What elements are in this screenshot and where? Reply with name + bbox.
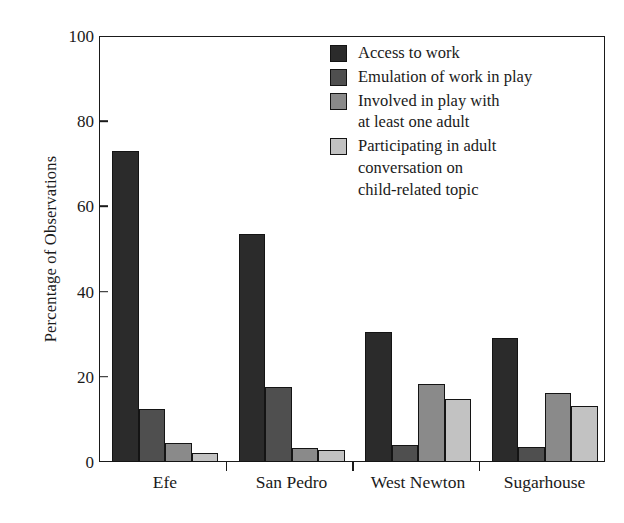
bar: [292, 448, 319, 462]
legend-swatch-icon: [330, 93, 347, 110]
y-axis-tick-mark: [99, 206, 108, 208]
bar: [492, 338, 519, 462]
bar: [418, 384, 445, 462]
x-axis-tick-mark: [352, 462, 354, 471]
legend-item: Access to work: [330, 42, 588, 64]
legend-swatch-icon: [330, 138, 347, 155]
legend-swatch-icon: [330, 45, 347, 62]
x-axis-group-labels: EfeSan PedroWest NewtonSugarhouse: [99, 472, 605, 512]
x-axis-tick-mark: [226, 462, 228, 471]
bar: [239, 234, 266, 462]
bar: [365, 332, 392, 462]
legend-swatch-icon: [330, 69, 347, 86]
bar: [392, 445, 419, 462]
bar-chart: Percentage of Observations 100806040200 …: [0, 0, 624, 523]
legend-item-label: Participating in adult conversation on c…: [358, 135, 496, 200]
y-axis-tick-labels: 100806040200: [14, 0, 94, 523]
legend-item: Involved in play with at least one adult: [330, 90, 588, 134]
bar: [545, 393, 572, 462]
legend-item: Participating in adult conversation on c…: [330, 135, 588, 200]
x-axis-tick-mark: [479, 462, 481, 471]
legend-item-label: Access to work: [358, 42, 460, 64]
bar: [165, 443, 192, 462]
bar: [518, 447, 545, 462]
bar: [192, 453, 219, 462]
y-axis-tick-mark: [99, 376, 108, 378]
x-axis-group-label: West Newton: [371, 472, 465, 493]
bar: [265, 387, 292, 462]
legend-item: Emulation of work in play: [330, 66, 588, 88]
bar: [318, 450, 345, 462]
bar: [139, 409, 166, 462]
y-axis-tick-label: 80: [46, 113, 94, 130]
y-axis-tick-mark: [99, 291, 108, 293]
y-axis-tick-label: 0: [46, 454, 94, 471]
y-axis-tick-mark: [99, 120, 108, 122]
y-axis-tick-label: 20: [46, 368, 94, 385]
x-axis-group-label: Efe: [153, 472, 177, 493]
bar: [571, 406, 598, 462]
y-axis-tick-label: 100: [46, 28, 94, 45]
bar: [445, 399, 472, 462]
y-axis-tick-label: 40: [46, 283, 94, 300]
legend-item-label: Emulation of work in play: [358, 66, 532, 88]
y-axis-tick-label: 60: [46, 198, 94, 215]
x-axis-group-label: Sugarhouse: [504, 472, 586, 493]
bar: [112, 151, 139, 462]
x-axis-group-label: San Pedro: [256, 472, 327, 493]
legend: Access to workEmulation of work in playI…: [330, 42, 588, 202]
legend-item-label: Involved in play with at least one adult: [358, 90, 500, 134]
